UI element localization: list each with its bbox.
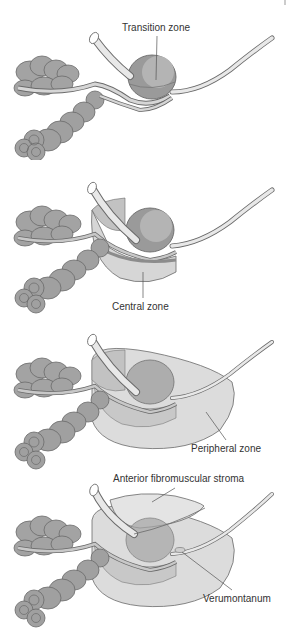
panel-transition-zone: Transition zone bbox=[0, 0, 290, 160]
label-verumontanum: Verumontanum bbox=[203, 593, 271, 604]
verumontanum-shape bbox=[175, 548, 185, 553]
label-transition-zone: Transition zone bbox=[122, 22, 190, 33]
panel-anterior-stroma: Anterior fibromuscular stroma Verumontan… bbox=[0, 470, 290, 638]
central-zone-illustration bbox=[0, 160, 290, 320]
panel-peripheral-zone: Peripheral zone bbox=[0, 320, 290, 470]
full-prostate-illustration bbox=[0, 470, 290, 638]
label-anterior-fibromuscular-stroma: Anterior fibromuscular stroma bbox=[113, 473, 244, 484]
label-central-zone: Central zone bbox=[112, 301, 169, 312]
label-peripheral-zone: Peripheral zone bbox=[191, 443, 261, 454]
panel-central-zone: Central zone bbox=[0, 160, 290, 320]
